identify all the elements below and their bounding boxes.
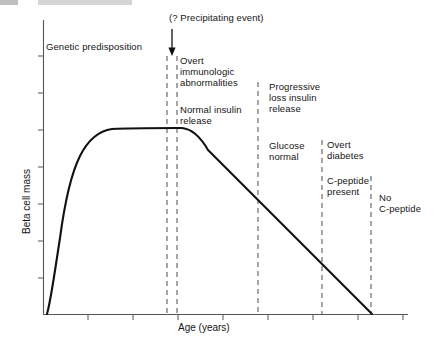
x-axis-title: Age (years) [178,322,230,333]
label-overt-diabetes: Overt diabetes [327,139,364,161]
y-axis-title: Beta cell mass [21,160,32,244]
label-progressive-loss-insulin-release: Progressive loss insulin release [269,81,320,114]
beta-cell-mass-curve [47,128,372,314]
label-normal-insulin-release: Normal insulin release [180,104,242,126]
beta-cell-mass-chart [0,0,441,349]
y-axis-ticks [38,56,44,278]
label-overt-immunologic-abnormalities: Overt immunologic abnormalities [180,55,238,88]
label-glucose-normal: Glucose normal [269,140,305,162]
label-c-peptide-present: C-peptide present [327,175,369,197]
label-precipitating-event: (? Precipitating event) [169,12,264,23]
label-genetic-predisposition: Genetic predisposition [46,41,142,52]
label-no-c-peptide: No C-peptide [379,192,421,214]
x-axis-ticks [88,315,403,321]
precipitating-event-arrow [168,29,175,56]
figure-container: (? Precipitating event) Genetic predispo… [0,0,441,349]
